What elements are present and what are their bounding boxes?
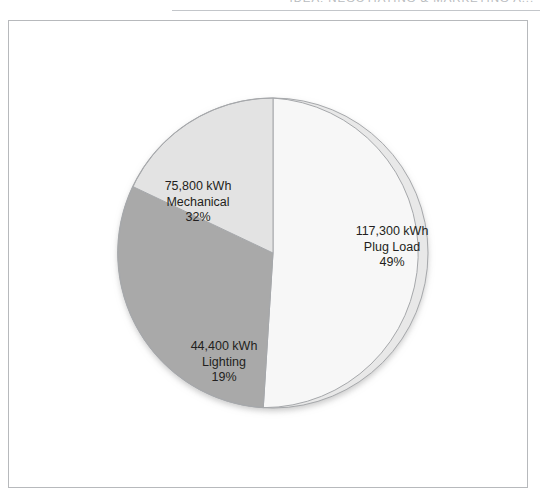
header-rule [172, 10, 540, 11]
pie-label-lighting-category: Lighting [159, 355, 289, 371]
pie-label-lighting: 44,400 kWh Lighting 19% [159, 339, 289, 386]
running-title: IDEA: NEGOTIATING & MARKETING A... [290, 0, 534, 4]
pie-chart: 117,300 kWh Plug Load 49% 75,800 kWh Mec… [9, 21, 529, 489]
pie-label-plug-load-value: 117,300 kWh [327, 224, 457, 240]
pie-label-mechanical-percent: 32% [132, 210, 264, 226]
pie-label-plug-load-percent: 49% [327, 255, 457, 271]
page-header: IDEA: NEGOTIATING & MARKETING A... [0, 0, 540, 12]
pie-label-plug-load: 117,300 kWh Plug Load 49% [327, 224, 457, 271]
pie-label-mechanical: 75,800 kWh Mechanical 32% [132, 179, 264, 226]
pie-label-lighting-value: 44,400 kWh [159, 339, 289, 355]
figure-frame: 117,300 kWh Plug Load 49% 75,800 kWh Mec… [8, 20, 528, 488]
pie-label-mechanical-value: 75,800 kWh [132, 179, 264, 195]
pie-label-mechanical-category: Mechanical [132, 195, 264, 211]
pie-label-plug-load-category: Plug Load [327, 240, 457, 256]
pie-label-lighting-percent: 19% [159, 370, 289, 386]
